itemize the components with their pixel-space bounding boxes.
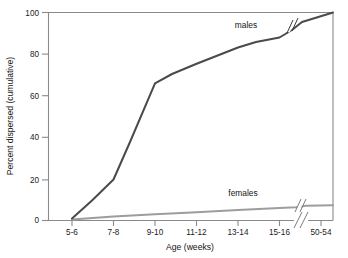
x-tick-label-15-16: 15-16 <box>269 228 290 237</box>
series-males <box>72 13 333 219</box>
x-axis-ticks: 5-6 7-8 9-10 11-12 13-14 15-16 50-54 <box>66 221 332 238</box>
y-axis-title: Percent dispersed (cumulative) <box>5 57 15 176</box>
y-tick-label-40: 40 <box>30 133 40 142</box>
females-line-path <box>72 205 333 219</box>
series-females <box>72 205 333 219</box>
y-tick-label-60: 60 <box>30 92 40 101</box>
chart-canvas: 0 20 40 60 80 100 5-6 7-8 9-10 11-12 <box>0 0 348 258</box>
x-tick-label-7-8: 7-8 <box>108 228 120 237</box>
y-tick-label-100: 100 <box>25 9 39 18</box>
x-tick-label-9-10: 9-10 <box>147 228 164 237</box>
x-tick-label-5-6: 5-6 <box>66 228 78 237</box>
y-tick-label-0: 0 <box>34 216 39 225</box>
y-tick-label-20: 20 <box>30 176 40 185</box>
chart-figure-root: 0 20 40 60 80 100 5-6 7-8 9-10 11-12 <box>0 0 348 258</box>
y-tick-label-80: 80 <box>30 50 40 59</box>
x-tick-label-11-12: 11-12 <box>186 228 207 237</box>
x-tick-label-50-54: 50-54 <box>311 228 332 237</box>
x-tick-label-13-14: 13-14 <box>228 228 249 237</box>
males-series-label: males <box>235 20 257 30</box>
cumulative-dispersal-line-chart: 0 20 40 60 80 100 5-6 7-8 9-10 11-12 <box>0 0 348 258</box>
x-axis-break-marker <box>294 212 308 228</box>
males-line-path <box>72 13 333 219</box>
plot-frame <box>48 13 333 221</box>
females-series-label: females <box>228 188 257 198</box>
y-axis-ticks: 0 20 40 60 80 100 <box>25 9 48 226</box>
x-axis-title: Age (weeks) <box>166 242 214 252</box>
females-line-break-marker <box>295 198 306 212</box>
